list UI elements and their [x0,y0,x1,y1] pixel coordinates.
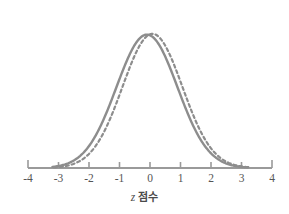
x-tick-label--4: -4 [16,172,40,185]
x-tick-label-2: 2 [199,172,223,185]
x-axis-title-variable: z [131,191,135,203]
x-axis-title-text: 점수 [138,191,158,204]
solid-normal-curve [52,35,247,168]
curves-group [52,34,249,168]
x-tick-label--1: -1 [108,172,132,185]
x-tick-label-0: 0 [138,172,162,185]
x-tick-label--2: -2 [77,172,101,185]
x-tick-label-3: 3 [230,172,254,185]
x-tick-label-1: 1 [169,172,193,185]
normal-distribution-chart: -4 -3 -2 -1 0 1 2 3 4 z 점수 [0,0,289,214]
x-tick-label--3: -3 [47,172,71,185]
dashed-normal-curve [54,34,249,168]
x-axis-title: z 점수 [0,190,289,205]
x-tick-label-4: 4 [260,172,284,185]
